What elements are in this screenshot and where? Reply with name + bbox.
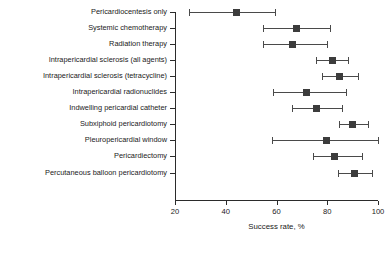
point-marker bbox=[349, 121, 356, 128]
ci-lower-cap bbox=[272, 137, 273, 144]
ci-lower-cap bbox=[339, 121, 340, 128]
ci-lower-cap bbox=[273, 89, 274, 96]
ci-upper-cap bbox=[275, 9, 276, 16]
ci-lower-cap bbox=[313, 153, 314, 160]
ci-lower-cap bbox=[322, 73, 323, 80]
x-axis-tick bbox=[378, 201, 379, 205]
ci-upper-cap bbox=[342, 105, 343, 112]
x-axis-tick bbox=[226, 201, 227, 205]
ci-upper-cap bbox=[327, 41, 328, 48]
data-row bbox=[0, 23, 392, 34]
x-axis-tick-label: 80 bbox=[312, 207, 342, 216]
plot-area: 20406080100 Success rate, % bbox=[0, 0, 392, 253]
x-axis-tick-label: 20 bbox=[160, 207, 190, 216]
data-row bbox=[0, 71, 392, 82]
ci-lower-cap bbox=[292, 105, 293, 112]
point-marker bbox=[293, 25, 300, 32]
data-row bbox=[0, 103, 392, 114]
point-marker bbox=[351, 170, 358, 177]
ci-upper-cap bbox=[362, 153, 363, 160]
data-row bbox=[0, 168, 392, 179]
point-marker bbox=[329, 57, 336, 64]
point-marker bbox=[233, 9, 240, 16]
point-marker bbox=[331, 153, 338, 160]
ci-upper-cap bbox=[346, 89, 347, 96]
x-axis-tick-label: 100 bbox=[363, 207, 392, 216]
x-axis-tick-label: 40 bbox=[211, 207, 241, 216]
data-row bbox=[0, 135, 392, 146]
ci-upper-cap bbox=[372, 170, 373, 177]
forest-plot-figure: Pericardiocentesis onlySystemic chemothe… bbox=[0, 0, 392, 253]
x-axis-title: Success rate, % bbox=[175, 222, 378, 231]
data-row bbox=[0, 7, 392, 18]
ci-lower-cap bbox=[263, 41, 264, 48]
point-marker bbox=[303, 89, 310, 96]
point-marker bbox=[336, 73, 343, 80]
data-row bbox=[0, 55, 392, 66]
data-row bbox=[0, 39, 392, 50]
ci-lower-cap bbox=[338, 170, 339, 177]
ci-upper-cap bbox=[330, 25, 331, 32]
x-axis-tick bbox=[327, 201, 328, 205]
data-row bbox=[0, 119, 392, 130]
x-axis-tick-label: 60 bbox=[262, 207, 292, 216]
ci-upper-cap bbox=[368, 121, 369, 128]
ci-lower-cap bbox=[189, 9, 190, 16]
x-axis-tick bbox=[175, 201, 176, 205]
ci-upper-cap bbox=[378, 137, 379, 144]
ci-lower-cap bbox=[316, 57, 317, 64]
point-marker bbox=[289, 41, 296, 48]
ci-upper-cap bbox=[348, 57, 349, 64]
point-marker bbox=[313, 105, 320, 112]
x-axis-tick bbox=[277, 201, 278, 205]
data-row bbox=[0, 151, 392, 162]
confidence-interval-line bbox=[189, 12, 275, 13]
data-row bbox=[0, 87, 392, 98]
point-marker bbox=[323, 137, 330, 144]
ci-upper-cap bbox=[358, 73, 359, 80]
ci-lower-cap bbox=[263, 25, 264, 32]
